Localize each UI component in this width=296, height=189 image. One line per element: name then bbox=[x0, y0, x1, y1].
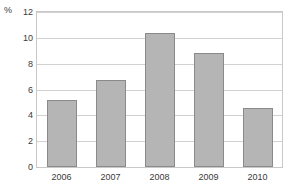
y-axis-tick-label: 2 bbox=[0, 136, 33, 146]
bar bbox=[243, 108, 273, 167]
x-axis-tick-label: 2010 bbox=[233, 172, 282, 182]
y-axis-tick-label: 6 bbox=[0, 85, 33, 95]
y-axis-tick-label: 10 bbox=[0, 33, 33, 43]
bar bbox=[96, 80, 126, 167]
x-axis-tick-label: 2006 bbox=[37, 172, 86, 182]
y-axis-tick-label: 12 bbox=[0, 7, 33, 17]
x-axis-tick-label: 2008 bbox=[135, 172, 184, 182]
x-axis-tick-label: 2007 bbox=[86, 172, 135, 182]
y-axis-tick-label: 8 bbox=[0, 59, 33, 69]
x-axis-tick-label: 2009 bbox=[184, 172, 233, 182]
bar bbox=[47, 100, 77, 167]
y-axis-tick-label: 0 bbox=[0, 162, 33, 172]
bars-layer bbox=[36, 11, 283, 168]
bar bbox=[194, 53, 224, 167]
y-axis-tick-label: 4 bbox=[0, 110, 33, 120]
bar bbox=[145, 33, 175, 167]
bar-chart: % 024681012 20062007200820092010 bbox=[0, 0, 296, 189]
